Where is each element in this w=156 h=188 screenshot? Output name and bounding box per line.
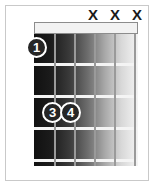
string-line xyxy=(114,34,116,166)
string-line xyxy=(54,34,56,166)
finger-marker-4: 4 xyxy=(60,102,81,123)
finger-marker-1: 1 xyxy=(26,37,47,58)
nut-bar xyxy=(34,22,138,34)
string-line xyxy=(134,34,136,166)
string-line xyxy=(74,34,76,166)
fretboard xyxy=(34,34,138,166)
chord-diagram-screenshot: X X X 1 3 4 xyxy=(0,0,156,188)
muted-strings-row: X X X xyxy=(0,0,156,24)
fret-wire xyxy=(34,95,138,98)
fret-wire xyxy=(34,127,138,130)
string-line xyxy=(94,34,96,166)
fret-wire xyxy=(34,159,138,162)
fret-wire xyxy=(34,63,138,66)
